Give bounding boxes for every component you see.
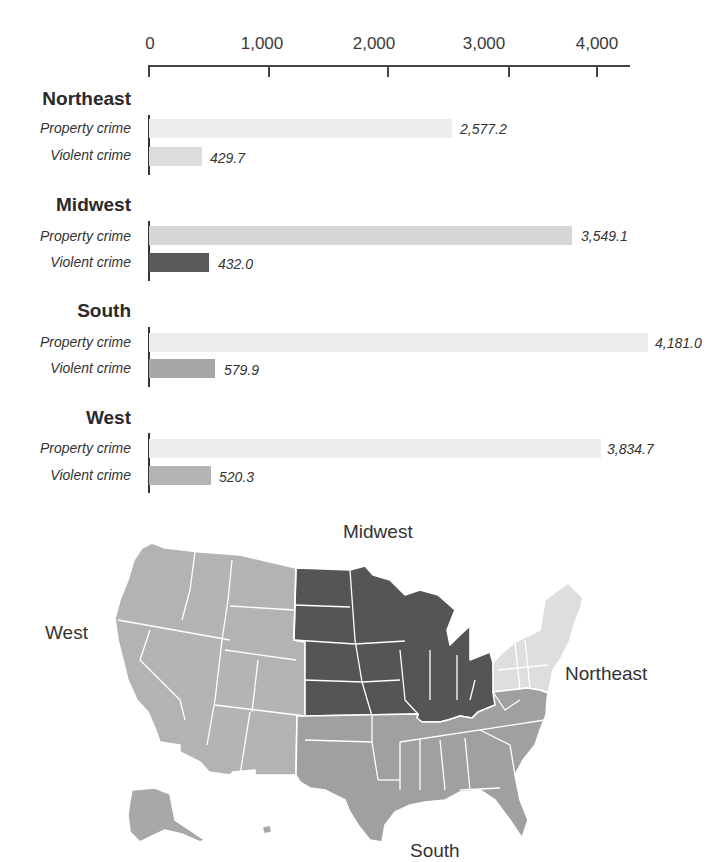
- map-label-south: South: [410, 840, 460, 862]
- map-label-northeast: Northeast: [565, 663, 647, 685]
- us-regions-map: [0, 0, 728, 862]
- map-label-midwest: Midwest: [343, 521, 413, 543]
- map-alaska: [128, 788, 205, 842]
- map-label-west: West: [45, 622, 88, 644]
- map-hawaii: [262, 825, 272, 834]
- map-region-west: [115, 543, 305, 775]
- map-region-midwest: [294, 566, 495, 722]
